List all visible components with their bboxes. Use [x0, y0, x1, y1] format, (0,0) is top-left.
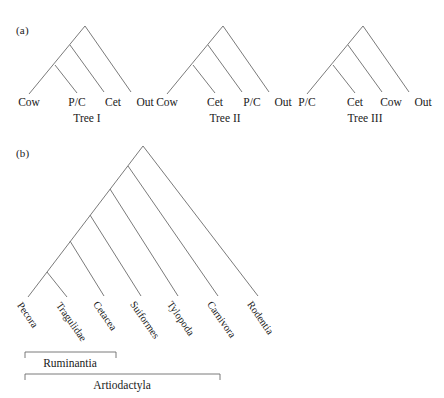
tree-1-leaf-cet: Cet	[105, 96, 121, 108]
bracket-label-ruminantia: Ruminantia	[43, 357, 97, 369]
tree-1-caption: Tree I	[73, 112, 100, 124]
tree-2-caption: Tree II	[209, 112, 240, 124]
tree-1-leaf-pc: P/C	[68, 96, 85, 108]
tree-3-caption: Tree III	[347, 112, 382, 124]
panel-b-label: (b)	[16, 147, 29, 159]
tree-2-branches	[167, 26, 269, 94]
tree-1-leaf-cow: Cow	[18, 96, 40, 108]
tree-3-leaf-cow: Cow	[380, 96, 402, 108]
figure-lines	[0, 0, 444, 398]
bracket-label-artiodactyla: Artiodactyla	[93, 379, 150, 391]
tree-1-branches	[29, 26, 131, 94]
phylogeny-figure: (a) (b) Cow P/C Cet Out Tree I Cow Cet P…	[0, 0, 444, 398]
tree-2-leaf-cet: Cet	[207, 96, 223, 108]
tree-3-leaf-cet: Cet	[347, 96, 363, 108]
tree-2-leaf-pc: P/C	[243, 96, 260, 108]
panel-a-label: (a)	[16, 24, 29, 36]
tree-2-leaf-out: Out	[274, 96, 291, 108]
tree-2-leaf-cow: Cow	[156, 96, 178, 108]
tree-3-leaf-pc: P/C	[298, 96, 315, 108]
tree-3-leaf-out: Out	[414, 96, 431, 108]
tree-1-leaf-out: Out	[136, 96, 153, 108]
tree-3-branches	[307, 26, 409, 94]
panel-b-branches	[28, 146, 258, 297]
